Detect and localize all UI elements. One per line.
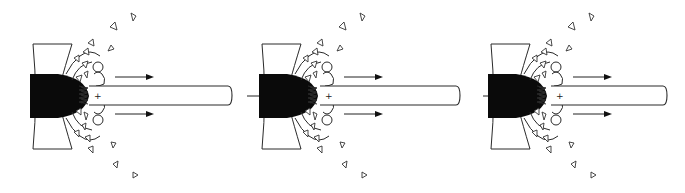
stage-1: + <box>30 13 232 178</box>
stage-3-tube <box>551 86 667 105</box>
stage-1-charge: + <box>94 91 102 101</box>
stage-2: + <box>259 13 460 178</box>
process-diagram: + + <box>0 0 685 193</box>
stage-3-charge: + <box>556 91 564 101</box>
stage-3: + <box>488 13 667 178</box>
stage-2-charge: + <box>325 91 333 101</box>
stage-1-tube <box>89 86 232 105</box>
stage-2-tube <box>320 86 460 105</box>
